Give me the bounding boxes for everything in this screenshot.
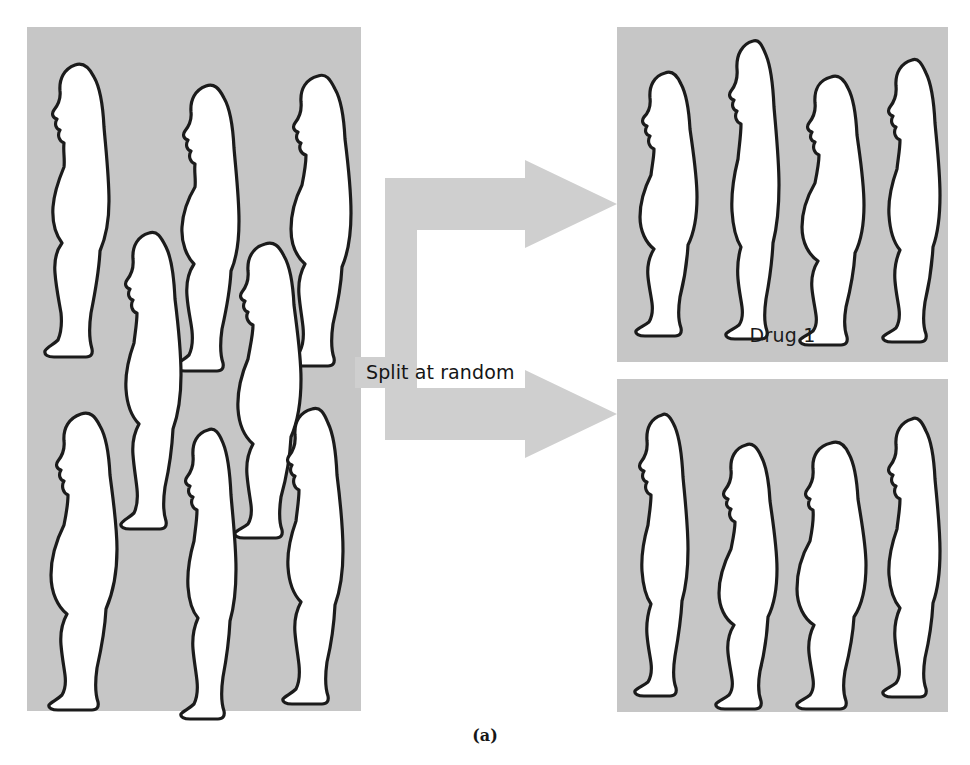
drug1-subject-4 [879,53,955,331]
drug1-group-panel: Drug 1 [617,27,948,362]
pool-subject-7 [175,421,255,709]
drug2-subject-2 [713,437,793,685]
drug2-subject-4 [879,411,955,679]
pool-subject-8 [277,401,363,703]
split-at-random-label: Split at random [366,361,515,383]
figure-caption: (a) [0,726,970,745]
drug2-group-panel: Drug 2 [617,379,948,712]
randomized-allocation-figure: Split at random Drug 1 [0,0,970,765]
drug1-subject-1 [633,65,713,327]
drug2-subject-3 [795,435,881,685]
pool-subject-6 [45,405,137,705]
drug1-subject-2 [721,35,793,327]
subject-pool-panel [27,27,361,711]
drug2-subject-1 [631,407,705,679]
drug1-subject-3 [797,69,879,331]
drug1-label: Drug 1 [617,324,948,346]
